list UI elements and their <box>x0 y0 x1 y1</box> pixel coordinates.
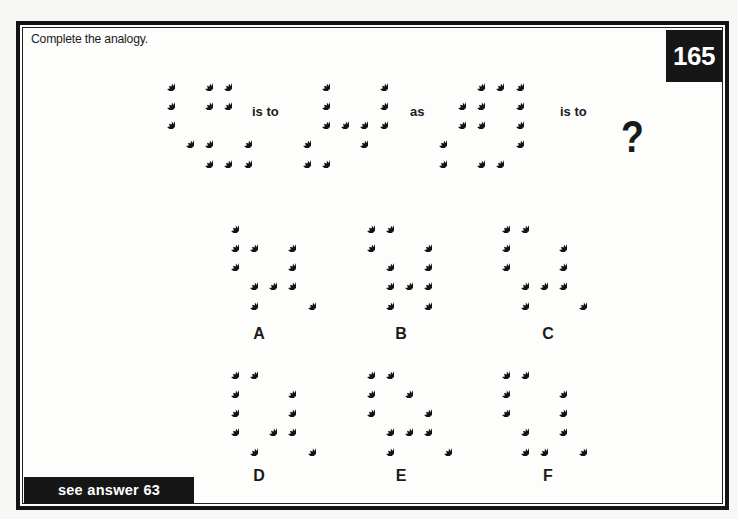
star-burst-icon <box>493 254 510 271</box>
star-burst-icon <box>371 112 388 129</box>
star-burst-icon <box>430 151 447 168</box>
star-burst-icon <box>550 419 567 436</box>
star-burst-icon <box>241 439 258 456</box>
star-burst-icon <box>313 74 330 91</box>
star-burst-icon <box>158 112 175 129</box>
star-burst-icon <box>222 216 239 233</box>
star-burst-icon <box>215 151 232 168</box>
star-burst-icon <box>512 216 529 233</box>
star-burst-icon <box>371 74 388 91</box>
option-label-d[interactable]: D <box>244 467 274 485</box>
star-burst-icon <box>430 131 447 148</box>
star-burst-icon <box>396 273 413 290</box>
see-answer-link[interactable]: see answer 63 <box>24 477 194 504</box>
star-burst-icon <box>241 273 258 290</box>
star-burst-icon <box>158 93 175 110</box>
star-burst-icon <box>512 439 529 456</box>
star-burst-icon <box>260 419 277 436</box>
star-burst-icon <box>196 131 213 148</box>
star-burst-icon <box>313 151 330 168</box>
star-burst-icon <box>215 93 232 110</box>
star-burst-icon <box>377 362 394 379</box>
star-burst-icon <box>507 74 524 91</box>
star-burst-icon <box>396 419 413 436</box>
star-burst-icon <box>493 235 510 252</box>
puzzle-number-badge: 165 <box>666 30 722 82</box>
star-burst-icon <box>235 151 252 168</box>
star-burst-icon <box>241 362 258 379</box>
star-burst-icon <box>550 254 567 271</box>
star-burst-icon <box>449 93 466 110</box>
star-burst-icon <box>507 93 524 110</box>
star-burst-icon <box>493 216 510 233</box>
star-burst-icon <box>550 235 567 252</box>
star-burst-icon <box>377 216 394 233</box>
star-burst-icon <box>241 235 258 252</box>
star-burst-icon <box>550 381 567 398</box>
star-burst-icon <box>512 273 529 290</box>
star-burst-icon <box>313 93 330 110</box>
star-burst-icon <box>351 112 368 129</box>
star-burst-icon <box>222 419 239 436</box>
star-burst-icon <box>435 439 452 456</box>
star-burst-icon <box>299 439 316 456</box>
star-burst-icon <box>512 362 529 379</box>
star-burst-icon <box>260 273 277 290</box>
star-burst-icon <box>396 381 413 398</box>
star-burst-icon <box>415 400 432 417</box>
star-burst-icon <box>222 362 239 379</box>
star-burst-icon <box>158 74 175 91</box>
star-burst-icon <box>512 419 529 436</box>
star-burst-icon <box>487 74 504 91</box>
option-label-a[interactable]: A <box>244 325 274 343</box>
star-burst-icon <box>279 273 296 290</box>
star-burst-icon <box>222 235 239 252</box>
star-burst-icon <box>358 362 375 379</box>
star-burst-icon <box>279 419 296 436</box>
star-burst-icon <box>377 254 394 271</box>
star-burst-icon <box>415 293 432 310</box>
star-burst-icon <box>294 131 311 148</box>
star-burst-icon <box>299 293 316 310</box>
option-label-c[interactable]: C <box>533 325 563 343</box>
star-burst-icon <box>570 439 587 456</box>
star-burst-icon <box>468 151 485 168</box>
star-burst-icon <box>313 112 330 129</box>
star-burst-icon <box>358 216 375 233</box>
star-burst-icon <box>449 112 466 129</box>
star-burst-icon <box>358 235 375 252</box>
star-burst-icon <box>294 151 311 168</box>
star-burst-icon <box>279 254 296 271</box>
star-burst-icon <box>570 293 587 310</box>
star-burst-icon <box>196 151 213 168</box>
star-burst-icon <box>415 273 432 290</box>
star-burst-icon <box>550 273 567 290</box>
option-label-e[interactable]: E <box>386 467 416 485</box>
star-burst-icon <box>468 112 485 129</box>
star-burst-icon <box>377 439 394 456</box>
star-burst-icon <box>415 419 432 436</box>
star-burst-icon <box>196 74 213 91</box>
star-burst-icon <box>487 151 504 168</box>
star-burst-icon <box>507 131 524 148</box>
connector-is-to-1: is to <box>252 104 279 119</box>
star-burst-icon <box>279 381 296 398</box>
star-burst-icon <box>358 400 375 417</box>
option-label-f[interactable]: F <box>533 467 563 485</box>
star-burst-icon <box>351 131 368 148</box>
star-burst-icon <box>531 439 548 456</box>
star-burst-icon <box>358 381 375 398</box>
star-burst-icon <box>222 381 239 398</box>
star-burst-icon <box>493 362 510 379</box>
star-burst-icon <box>235 131 252 148</box>
star-burst-icon <box>241 293 258 310</box>
star-burst-icon <box>377 293 394 310</box>
connector-as: as <box>410 104 424 119</box>
star-burst-icon <box>468 74 485 91</box>
unknown-figure-question-mark: ? <box>621 112 644 162</box>
option-label-b[interactable]: B <box>386 325 416 343</box>
star-burst-icon <box>550 400 567 417</box>
star-burst-icon <box>507 112 524 129</box>
star-burst-icon <box>415 254 432 271</box>
connector-is-to-2: is to <box>560 104 587 119</box>
